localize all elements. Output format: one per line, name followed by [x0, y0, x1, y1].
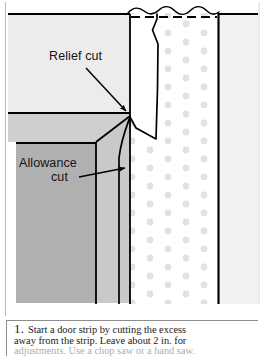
caption-text: 1. Start a door strip by cutting the exc… — [14, 324, 258, 356]
caption-line-1: 1. Start a door strip by cutting the exc… — [14, 324, 258, 336]
allowance-cut-label-line1: Allowance — [19, 156, 77, 170]
illustration-figure: Relief cut Allowance cut — [0, 0, 264, 318]
caption-top-rule — [6, 320, 258, 321]
allowance-wedge-panel — [96, 117, 130, 303]
relief-cut-label: Relief cut — [49, 49, 102, 63]
caption-left-rule — [6, 320, 7, 356]
far-wall-panel — [219, 13, 258, 316]
caption-line-3: adjustments. Use a chop saw or a hand sa… — [14, 346, 258, 356]
step-number: 1. — [14, 321, 28, 336]
caption-block: 1. Start a door strip by cutting the exc… — [0, 318, 264, 356]
caption-line-1-text: Start a door strip by cutting the excess — [28, 324, 186, 335]
allowance-cut-label-line2: cut — [51, 170, 68, 184]
illustration-bottom-margin — [0, 304, 264, 318]
upper-wall-panel — [8, 14, 130, 112]
figure-page: Relief cut Allowance cut 1. Start a door… — [0, 0, 264, 356]
